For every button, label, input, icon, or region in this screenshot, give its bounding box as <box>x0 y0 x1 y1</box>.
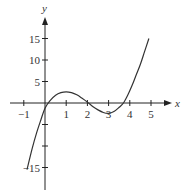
x-tick-label: 5 <box>148 108 154 120</box>
y-tick-label: 10 <box>29 54 41 66</box>
tick-labels: xy−11234515105−15 <box>18 2 180 174</box>
x-tick-label: 2 <box>85 108 91 120</box>
y-tick-label: 5 <box>35 76 41 88</box>
cubic-function-graph: xy−11234515105−15 <box>0 0 189 193</box>
x-axis-label: x <box>174 97 180 109</box>
x-tick-label: −1 <box>18 108 30 120</box>
x-tick-label: 3 <box>106 108 112 120</box>
y-tick-label: −15 <box>23 162 41 174</box>
x-axis-arrow-icon <box>164 100 172 106</box>
x-tick-label: 4 <box>127 108 133 120</box>
y-axis-arrow-icon <box>42 17 48 25</box>
x-tick-label: 1 <box>63 108 69 120</box>
y-tick-label: 15 <box>29 33 41 45</box>
y-axis-label: y <box>41 2 47 14</box>
